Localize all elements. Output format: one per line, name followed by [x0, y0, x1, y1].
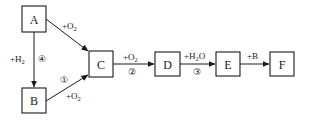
reagent-label-d-e: +H2O [184, 51, 206, 62]
node-b: B [22, 88, 46, 113]
svg-text:A: A [30, 13, 39, 27]
svg-text:C: C [97, 58, 105, 72]
reagent-label-a-c: +O2 [62, 21, 77, 32]
step-marker-3: ③ [193, 67, 201, 77]
svg-text:B: B [30, 94, 38, 108]
reagent-label-b-c: +O2 [66, 91, 81, 102]
node-f: F [270, 52, 294, 76]
svg-text:F: F [279, 58, 286, 72]
step-marker-2: ② [128, 67, 136, 77]
reagent-label-e-f: +B [247, 51, 258, 61]
step-marker-1: ① [60, 75, 68, 85]
node-a: A [22, 6, 46, 32]
reagent-label-c-d: +O2 [123, 52, 138, 63]
reagent-label-a-b: +H2 [10, 54, 25, 65]
step-marker-4: ④ [38, 54, 46, 64]
node-d: D [155, 52, 180, 76]
node-e: E [216, 52, 240, 76]
svg-text:E: E [224, 58, 231, 72]
node-c: C [89, 51, 113, 77]
reaction-diagram: A B C D E F +O2 +H2 ④ ① +O2 +O2 ② +H2O ③ [0, 0, 311, 121]
svg-text:D: D [163, 58, 172, 72]
